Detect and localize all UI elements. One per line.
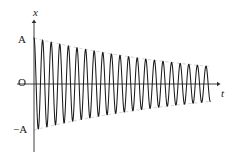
damped-oscillation-figure: x t A O −A	[0, 0, 235, 162]
damped-oscillation-curve	[34, 38, 210, 129]
x-axis-label: t	[221, 88, 224, 99]
negative-amplitude-label: −A	[13, 124, 27, 135]
origin-label: O	[18, 77, 26, 88]
oscillation-plot-svg	[0, 0, 235, 162]
lower-envelope-dashed-line	[34, 101, 210, 130]
positive-amplitude-label: A	[18, 34, 26, 45]
y-axis-label: x	[33, 7, 38, 18]
